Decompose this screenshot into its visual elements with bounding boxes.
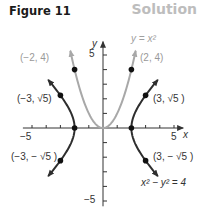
point-0 xyxy=(72,67,78,73)
parabola-curve-left xyxy=(70,51,103,128)
parabola-equation-label: y = x² xyxy=(130,33,156,44)
xtick-label-neg5: −5 xyxy=(20,131,32,142)
x-axis-label: x xyxy=(182,129,189,140)
ytick-label-neg5: −5 xyxy=(84,194,96,205)
hyperbola-left-upper xyxy=(48,80,74,128)
hyperbola-equation-label: x² − y² = 4 xyxy=(140,177,186,188)
point-4 xyxy=(58,158,64,164)
point-1 xyxy=(129,67,135,73)
point-label-3-negsqrt5: (3, − √5 ) xyxy=(153,151,193,162)
point-label-neg2-4: (−2, 4) xyxy=(20,52,49,63)
point-label-neg3-negsqrt5: (−3, − √5 ) xyxy=(11,151,57,162)
parabola-curve-right xyxy=(103,51,136,128)
point-7 xyxy=(129,125,135,131)
point-2 xyxy=(58,93,64,99)
ytick-label-5: 5 xyxy=(89,48,95,59)
xtick-label-5: 5 xyxy=(171,131,177,142)
point-label-2-4: (2, 4) xyxy=(140,52,163,63)
point-label-neg3-sqrt5: (−3, √5) xyxy=(17,93,52,104)
point-5 xyxy=(143,158,149,164)
point-label-3-sqrt5: (3, √5 ) xyxy=(153,93,185,104)
point-3 xyxy=(143,93,149,99)
chart: y x 5 −5 −5 5 y = x² (−2, 4) (2, 4) (−3,… xyxy=(0,0,205,218)
point-6 xyxy=(72,125,78,131)
